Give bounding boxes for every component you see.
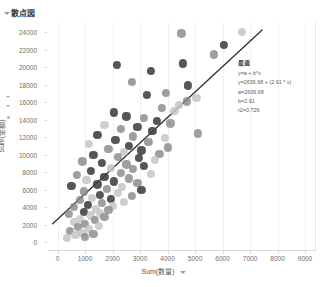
x-tick-label: 2000 [105, 255, 119, 262]
y-tick-mark [44, 172, 47, 173]
plot-area[interactable] [48, 22, 316, 250]
x-tick-label: 7000 [243, 255, 257, 262]
x-tick-label: 8000 [270, 255, 284, 262]
y-tick-mark [44, 242, 47, 243]
y-tick-mark [44, 102, 47, 103]
annotation-line: y=2636.68 + (2.91 * x) [238, 78, 324, 87]
x-tick-mark [113, 251, 114, 254]
x-tick-mark [195, 251, 196, 254]
y-tick-mark [44, 67, 47, 68]
y-tick-label: 24000 [19, 29, 37, 36]
y-tick-mark [44, 137, 47, 138]
x-tick-label: 0 [56, 255, 60, 262]
y-tick-label: 2000 [23, 221, 37, 228]
y-tick-label: 6000 [23, 186, 37, 193]
x-axis-ticks: 0100020003000400050006000700080009000 [48, 251, 316, 265]
y-axis-ticks: 0200040006000800010000120001400016000180… [0, 22, 44, 250]
annotation-line: a=2636.68 [238, 88, 324, 97]
y-tick-mark [44, 32, 47, 33]
chart-header: 散点図 [0, 0, 327, 20]
x-tick-label: 6000 [215, 255, 229, 262]
annotation-line: y=a + b*x [238, 69, 324, 78]
y-tick-label: 4000 [23, 204, 37, 211]
chevron-down-icon[interactable] [6, 96, 10, 98]
y-tick-label: 12000 [19, 134, 37, 141]
y-axis-title[interactable]: Sum(金額) [0, 119, 6, 152]
y-tick-label: 10000 [19, 151, 37, 158]
annotation-line: r2=0.726 [238, 106, 324, 115]
x-tick-label: 5000 [188, 255, 202, 262]
y-tick-mark [44, 50, 47, 51]
x-tick-mark [278, 251, 279, 254]
y-axis-controls[interactable] [5, 96, 14, 130]
y-tick-mark [44, 120, 47, 121]
annotation-heading: 最適 [238, 59, 324, 69]
x-tick-mark [168, 251, 169, 254]
x-tick-mark [305, 251, 306, 254]
x-tick-label: 1000 [78, 255, 92, 262]
y-tick-mark [44, 207, 47, 208]
x-tick-label: 3000 [133, 255, 147, 262]
y-tick-mark [44, 85, 47, 86]
y-tick-mark [44, 155, 47, 156]
y-tick-label: 8000 [23, 169, 37, 176]
y-tick-label: 22000 [19, 46, 37, 53]
chevron-down-icon[interactable] [180, 271, 186, 274]
x-tick-mark [85, 251, 86, 254]
x-axis-title-label: Sum(数量) [141, 268, 174, 275]
chevron-down-icon[interactable] [4, 12, 10, 15]
trendline-annotation: 最適 y=a + b*xy=2636.68 + (2.91 * x)a=2636… [238, 59, 324, 115]
x-tick-mark [250, 251, 251, 254]
page-title: 散点図 [11, 7, 36, 18]
y-tick-label: 16000 [19, 99, 37, 106]
x-tick-mark [223, 251, 224, 254]
y-tick-label: 20000 [19, 64, 37, 71]
x-tick-mark [58, 251, 59, 254]
y-tick-mark [44, 225, 47, 226]
y-tick-label: 14000 [19, 116, 37, 123]
annotation-line: b=2.91 [238, 97, 324, 106]
x-axis-title[interactable]: Sum(数量) [0, 266, 327, 276]
handle-dot-icon[interactable] [7, 116, 10, 119]
chevron-down-icon[interactable] [6, 105, 10, 107]
scatter-canvas [48, 22, 315, 250]
x-tick-label: 9000 [298, 255, 312, 262]
y-tick-mark [44, 190, 47, 191]
x-tick-mark [140, 251, 141, 254]
y-tick-label: 18000 [19, 81, 37, 88]
y-tick-label: 0 [33, 239, 37, 246]
x-tick-label: 4000 [160, 255, 174, 262]
